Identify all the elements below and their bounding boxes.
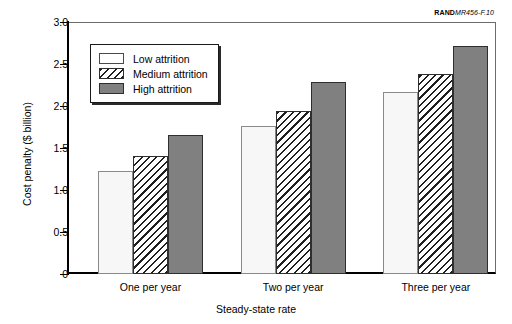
figure-credit-prefix: RAND: [434, 9, 455, 16]
x-tick-label: Three per year: [376, 281, 496, 293]
chart-legend: Low attritionMedium attritionHigh attrit…: [90, 44, 219, 103]
legend-item: Medium attrition: [99, 66, 208, 81]
legend-swatch-white: [99, 53, 124, 64]
x-tick-label: Two per year: [233, 281, 353, 293]
legend-label: Low attrition: [133, 53, 190, 65]
x-tick-label: One per year: [91, 281, 211, 293]
legend-label: High attrition: [133, 83, 192, 95]
y-axis-ticks: 00.51.01.52.02.53.0: [0, 0, 68, 324]
legend-item: High attrition: [99, 81, 208, 96]
legend-item: Low attrition: [99, 51, 208, 66]
legend-swatch-gray: [99, 83, 124, 94]
figure-credit-suffix: MR456-F.10: [455, 9, 494, 16]
figure-credit: RANDMR456-F.10: [434, 9, 494, 16]
legend-swatch-hatch: [99, 68, 124, 79]
y-axis-title: Cost penalty ($ billion): [21, 64, 33, 244]
y-tick-label: 0: [14, 269, 68, 279]
y-tick-label: 3.0: [14, 17, 68, 27]
legend-label: Medium attrition: [133, 68, 208, 80]
x-axis-title: Steady-state rate: [0, 303, 512, 315]
